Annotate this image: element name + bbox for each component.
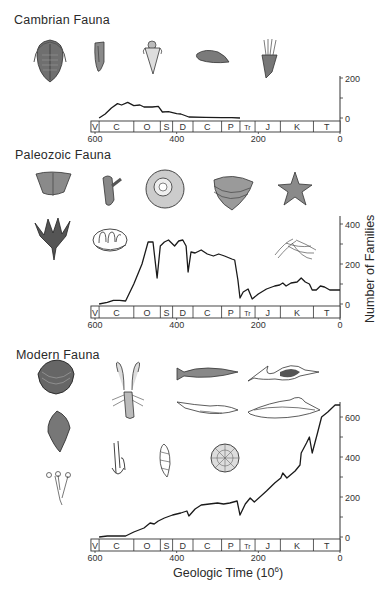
period-label: V xyxy=(92,308,98,318)
bivalve-icon xyxy=(38,360,74,394)
period-label: O xyxy=(144,122,151,132)
period-label: S xyxy=(163,122,169,132)
figure-canvas: 2000VCOSDCPTrJKT60040020004002000VCOSDCP… xyxy=(0,0,392,592)
x-tick-label: 200 xyxy=(251,134,266,144)
cephalopod-icon xyxy=(146,170,184,208)
period-label: V xyxy=(92,122,98,132)
period-label: J xyxy=(265,122,270,132)
y-tick-label: 200 xyxy=(345,493,360,503)
period-label: T xyxy=(324,541,330,551)
period-label: O xyxy=(144,541,151,551)
period-label: J xyxy=(265,541,270,551)
trilobite-icon xyxy=(34,40,66,82)
period-label: S xyxy=(163,541,169,551)
period-label: D xyxy=(180,541,187,551)
shark-icon xyxy=(177,402,238,414)
period-label: C xyxy=(113,308,120,318)
period-label: J xyxy=(265,308,270,318)
period-label: C xyxy=(204,308,211,318)
x-tick-label: 600 xyxy=(88,553,103,563)
eocrinoid-icon xyxy=(262,39,277,78)
period-label: P xyxy=(228,541,234,551)
bryozoan-modern-icon xyxy=(112,441,125,474)
period-label: D xyxy=(180,122,187,132)
period-label: P xyxy=(228,122,234,132)
period-label: C xyxy=(204,541,211,551)
monoplacophoran-icon xyxy=(143,41,162,74)
x-tick-label: 400 xyxy=(169,553,184,563)
x-tick-label: 200 xyxy=(251,553,266,563)
x-tick-label: 0 xyxy=(337,134,342,144)
hydrozoan-icon xyxy=(47,472,71,506)
coral-icon xyxy=(93,229,127,251)
gastropod-icon xyxy=(48,411,70,452)
period-label: K xyxy=(294,541,300,551)
period-label: V xyxy=(92,541,98,551)
y-tick-label: 600 xyxy=(345,413,360,423)
period-label: K xyxy=(294,308,300,318)
articulate-brachiopod-icon xyxy=(36,172,71,196)
graptolite-icon xyxy=(275,239,316,259)
y-tick-label: 0 xyxy=(345,114,350,124)
period-label: C xyxy=(113,541,120,551)
y-tick-label: 0 xyxy=(345,533,350,543)
period-label: D xyxy=(180,308,187,318)
y-tick-label: 200 xyxy=(345,260,360,270)
period-bar xyxy=(91,306,340,318)
echinoid-icon xyxy=(211,444,239,472)
period-label: C xyxy=(204,122,211,132)
charts-group: 2000VCOSDCPTrJKT60040020004002000VCOSDCP… xyxy=(88,74,361,564)
ichthyosaur-icon xyxy=(248,366,319,381)
period-label: Tr xyxy=(244,310,251,317)
y-tick-label: 400 xyxy=(345,220,360,230)
x-tick-label: 200 xyxy=(251,320,266,330)
y-tick-label: 400 xyxy=(345,453,360,463)
bryozoan-icon xyxy=(103,176,121,205)
ostracod-icon xyxy=(214,176,253,210)
x-tick-label: 400 xyxy=(169,320,184,330)
hyolith-icon xyxy=(95,42,104,71)
foraminifera-icon xyxy=(160,444,170,477)
period-label: P xyxy=(228,308,234,318)
period-label: Tr xyxy=(244,124,251,131)
diversity-line-cambrian xyxy=(99,102,240,118)
diversity-line-paleozoic xyxy=(99,240,340,304)
period-label: T xyxy=(324,308,330,318)
marine-reptile-icon xyxy=(248,397,320,418)
y-tick-label: 200 xyxy=(345,74,360,84)
crayfish-icon xyxy=(112,362,144,418)
crinoid-icon xyxy=(35,218,70,260)
x-tick-label: 0 xyxy=(337,320,342,330)
x-tick-label: 600 xyxy=(88,134,103,144)
period-label: C xyxy=(113,122,120,132)
inarticulate-brachiopod-icon xyxy=(196,50,229,62)
period-label: Tr xyxy=(244,543,251,550)
period-label: S xyxy=(163,308,169,318)
period-label: K xyxy=(294,122,300,132)
y-tick-label: 0 xyxy=(345,300,350,310)
period-label: T xyxy=(324,122,330,132)
x-tick-label: 600 xyxy=(88,320,103,330)
x-tick-label: 400 xyxy=(169,134,184,144)
period-label: O xyxy=(144,308,151,318)
period-bar xyxy=(91,121,340,132)
x-tick-label: 0 xyxy=(337,553,342,563)
starfish-icon xyxy=(278,172,312,205)
fish-icon xyxy=(177,368,238,380)
period-bar xyxy=(91,539,340,551)
